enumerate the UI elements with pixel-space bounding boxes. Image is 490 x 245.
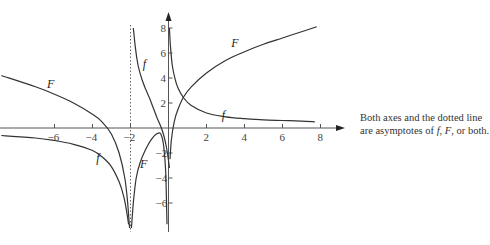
curve-F [1,76,129,229]
chart-caption: Both axes and the dotted line are asympt… [360,111,490,137]
caption-suffix: , or both. [451,125,489,136]
axes: −6−4−224688642−2−4−6 [0,12,345,232]
x-tick-label: 6 [280,131,286,143]
y-axis-arrow-icon [166,12,172,21]
caption-text: are asymptotes of [360,125,437,136]
curve-label-F: F [230,36,239,50]
x-tick-label: −4 [86,131,98,143]
caption-line-1: Both axes and the dotted line [360,112,482,123]
x-tick-label: 4 [242,131,248,143]
x-axis-arrow-icon [336,125,345,131]
curve-label-f: f [222,108,227,122]
x-tick-label: −2 [124,131,136,143]
curve-label-f: f [143,57,148,71]
curve-label-F: F [139,157,148,171]
curve-f [169,28,314,122]
y-tick-label: 6 [161,47,167,59]
y-tick-label: 8 [161,22,167,34]
y-tick-label: 4 [161,72,167,84]
x-tick-label: 8 [318,131,324,143]
y-tick-label: 2 [161,97,167,109]
curve-label-f: f [96,151,101,165]
x-tick-label: 2 [204,131,210,143]
curve-label-F: F [46,77,55,91]
y-tick-label: −2 [156,147,168,159]
curve-f [1,136,128,225]
